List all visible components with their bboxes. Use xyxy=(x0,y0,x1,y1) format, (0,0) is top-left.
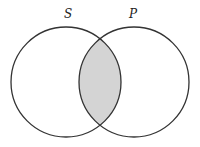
set-s-label: S xyxy=(64,7,72,21)
venn-diagram: S P xyxy=(0,0,200,147)
set-p-label: P xyxy=(128,7,138,21)
